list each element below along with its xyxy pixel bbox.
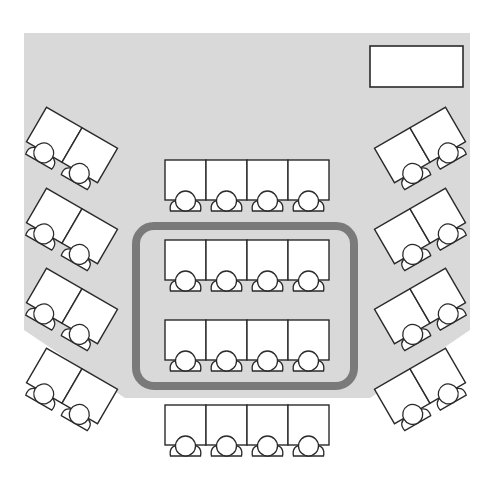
seat — [247, 320, 288, 371]
teacher-desk-rect — [370, 46, 463, 87]
seat — [206, 160, 247, 211]
seat — [206, 240, 247, 291]
classroom-diagram — [0, 0, 492, 480]
seat — [206, 405, 247, 456]
seat — [288, 405, 329, 456]
seat — [288, 240, 329, 291]
seat — [288, 320, 329, 371]
seat — [288, 160, 329, 211]
seat — [165, 405, 206, 456]
teacher-desk — [370, 46, 463, 87]
seat — [206, 320, 247, 371]
seat — [247, 240, 288, 291]
seat — [165, 320, 206, 371]
seat — [165, 160, 206, 211]
desk-row-4 — [165, 405, 329, 456]
seat — [247, 160, 288, 211]
seat — [247, 405, 288, 456]
seat — [165, 240, 206, 291]
seating-chart-canvas — [0, 0, 492, 480]
